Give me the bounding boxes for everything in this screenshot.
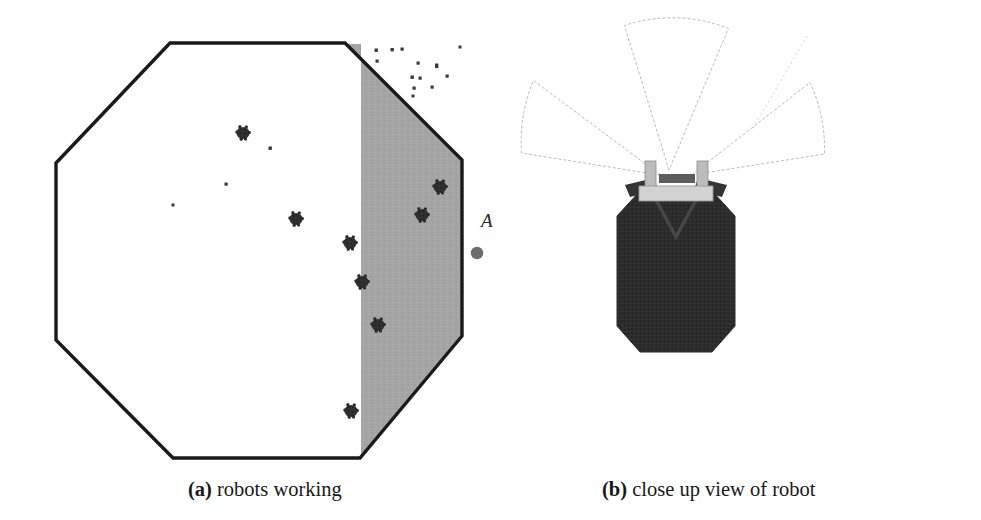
dot [376,60,379,63]
dot [435,64,438,69]
robot-marker [343,403,358,419]
arena-diagram [0,0,520,470]
robot-closeup-diagram [520,0,981,470]
dot [375,49,378,52]
point-a-label: A [481,210,493,232]
sensor-bar [659,174,695,183]
dot [225,183,228,186]
sensor-cone-center [625,18,729,170]
dot [459,46,462,49]
caption-panel-a: (a) robots working [188,474,342,508]
dot [417,62,420,65]
sensor-platform [639,186,713,201]
dot [412,95,415,98]
robot-marker [235,125,250,141]
dot [269,147,272,150]
dot [419,77,422,80]
robot-body [617,191,735,352]
figure-root: A [0,0,981,520]
robot-marker [288,211,303,227]
view-angle-leader-line [752,36,807,130]
dot [431,86,434,89]
panel-robot-closeup: view angle IR sensors [520,0,981,470]
dot [413,87,416,90]
sensor-cone-right [692,83,825,176]
caption-b-text: close up view of robot [632,478,815,500]
dot [411,76,414,79]
caption-b-label: (b) [602,478,627,500]
sensor-cone-left [521,81,660,176]
dot [401,48,404,51]
caption-a-text: robots working [217,478,342,500]
dot [172,204,175,207]
dot [391,48,394,51]
robot-marker [342,235,357,251]
caption-a-label: (a) [188,478,212,500]
caption-panel-b: (b) close up view of robot [602,474,816,508]
sensor-cones [521,18,824,175]
arena-shaded-region [345,44,461,457]
point-a-dot [471,247,483,259]
panel-robots-working: A [0,0,520,470]
dot [446,75,449,78]
